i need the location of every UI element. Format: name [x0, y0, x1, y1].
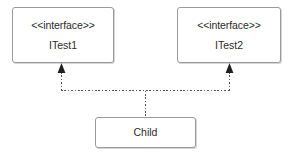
- uml-diagram-canvas: <<interface>> ITest1 <<interface>> ITest…: [0, 0, 290, 154]
- interface-stereotype-label: <<interface>>: [197, 20, 261, 31]
- interface-name-label: ITest1: [49, 40, 77, 51]
- interface-node-itest1[interactable]: <<interface>> ITest1: [12, 7, 114, 63]
- interface-name-label: ITest2: [215, 40, 243, 51]
- class-name-label: Child: [134, 127, 158, 138]
- realization-arrowhead-right: [226, 63, 234, 73]
- interface-stereotype-label: <<interface>>: [31, 20, 95, 31]
- interface-node-itest2[interactable]: <<interface>> ITest2: [177, 7, 281, 63]
- class-node-child[interactable]: Child: [95, 117, 196, 148]
- realization-arrowhead-left: [58, 63, 66, 73]
